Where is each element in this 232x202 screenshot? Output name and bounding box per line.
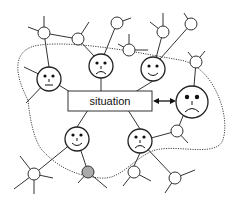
bidirectional-arrow	[153, 98, 176, 104]
highlighted-node	[82, 166, 94, 178]
node	[185, 18, 197, 30]
face-left	[37, 67, 61, 91]
face-top-right	[141, 57, 165, 81]
node	[38, 27, 50, 39]
network-diagram: situation	[0, 0, 232, 202]
face-bottom-left	[65, 127, 89, 151]
node	[72, 33, 84, 45]
node	[171, 125, 183, 137]
node	[169, 172, 181, 184]
node	[123, 44, 135, 56]
face-bottom-middle	[128, 129, 152, 153]
node	[157, 26, 169, 38]
node	[190, 56, 202, 68]
face-large-right	[176, 86, 208, 118]
situation-label: situation	[90, 95, 131, 107]
face-top-middle	[89, 54, 113, 78]
node	[111, 17, 123, 29]
node	[28, 168, 40, 180]
node	[128, 166, 140, 178]
